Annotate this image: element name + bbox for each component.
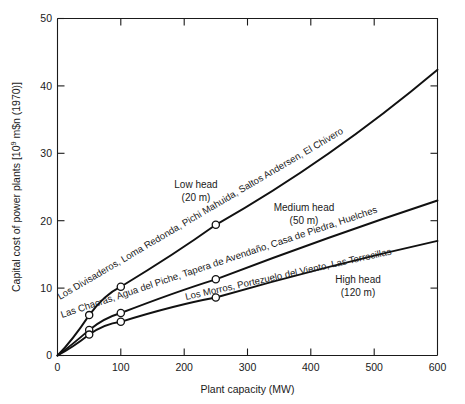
- y-tick-label: 20: [40, 215, 52, 227]
- x-tick-label: 0: [55, 361, 61, 373]
- x-tick-label: 500: [365, 361, 383, 373]
- high-head-label: High head: [335, 274, 381, 285]
- y-axis-title: Capital cost of power plants [109 m$n (1…: [9, 82, 22, 292]
- data-point-marker: [212, 221, 219, 228]
- curve-low-head: [58, 70, 438, 356]
- data-point-marker: [212, 276, 219, 283]
- data-point-marker: [117, 318, 124, 325]
- series-low-head: [58, 70, 438, 356]
- low-head-label: Low head: [174, 179, 217, 190]
- chart-svg: 0 10 20 30 40 50 0 100 200 300 400 500 6…: [0, 0, 465, 404]
- x-tick-label: 600: [429, 361, 447, 373]
- high-head-value: (120 m): [341, 287, 375, 298]
- y-axis-title-prefix: Capital cost of power plants [10: [10, 145, 22, 292]
- y-tick-label: 30: [40, 147, 52, 159]
- data-point-marker: [86, 331, 93, 338]
- x-axis-title: Plant capacity (MW): [201, 383, 295, 395]
- y-tick-labels: 0 10 20 30 40 50: [40, 12, 52, 361]
- svg-text:Capital cost of power plants [: Capital cost of power plants [109 m$n (1…: [9, 82, 22, 292]
- x-tick-label: 100: [112, 361, 130, 373]
- medium-head-label: Medium head: [274, 202, 335, 213]
- y-axis-title-suffix: m$n (1970)]: [10, 82, 22, 142]
- x-tick-label: 200: [175, 361, 193, 373]
- y-tick-label: 0: [46, 349, 52, 361]
- y-tick-label: 50: [40, 12, 52, 24]
- annotation-high-head: High head (120 m): [335, 274, 381, 298]
- low-head-value: (20 m): [182, 192, 211, 203]
- data-point-marker: [117, 309, 124, 316]
- x-tick-label: 300: [239, 361, 257, 373]
- x-tick-labels: 0 100 200 300 400 500 600: [55, 361, 447, 373]
- chart-figure: 0 10 20 30 40 50 0 100 200 300 400 500 6…: [0, 0, 465, 404]
- data-point-marker: [86, 312, 93, 319]
- y-tick-label: 10: [40, 282, 52, 294]
- y-tick-label: 40: [40, 80, 52, 92]
- x-tick-label: 400: [302, 361, 320, 373]
